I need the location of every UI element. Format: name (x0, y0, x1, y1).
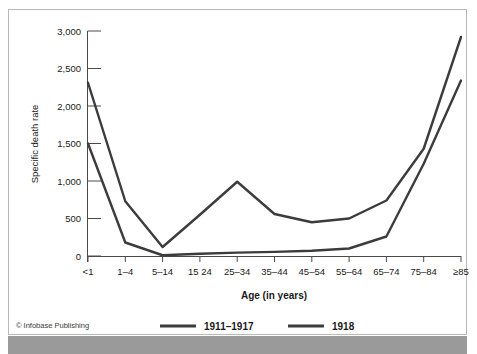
x-tick-label-5: 35–44 (261, 266, 287, 277)
figure-root: 3,000 2,500 2,000 1,500 1,000 500 0 <11–… (0, 0, 477, 354)
y-tick-label-3000: 3,000 (57, 26, 81, 37)
x-axis-tick-labels: <11–45–1415 2425–3435–4445–5455–6465–747… (83, 266, 469, 277)
y-tick-label-2000: 2,000 (57, 101, 81, 112)
x-tick-label-8: 65–74 (373, 266, 399, 277)
y-axis-tick-labels: 3,000 2,500 2,000 1,500 1,000 500 0 (57, 26, 81, 262)
legend: 1911–1917 1918 (160, 321, 355, 332)
line-chart: 3,000 2,500 2,000 1,500 1,000 500 0 <11–… (0, 0, 477, 354)
bottom-grey-strip (8, 336, 467, 354)
x-tick-label-7: 55–64 (336, 266, 362, 277)
y-tick-label-2500: 2,500 (57, 63, 81, 74)
legend-label-1918: 1918 (332, 321, 355, 332)
x-tick-label-9: 75–84 (410, 266, 436, 277)
y-axis-ticks (88, 31, 102, 256)
y-tick-label-0: 0 (76, 251, 81, 262)
publisher-credit: © Infobase Publishing (16, 321, 89, 330)
series-line-1918 (88, 37, 461, 247)
series-line-1911-1917 (88, 81, 461, 256)
x-tick-label-2: 5–14 (152, 266, 173, 277)
y-tick-label-1500: 1,500 (57, 138, 81, 149)
y-axis-title: Specific death rate (29, 105, 40, 184)
y-tick-label-500: 500 (65, 213, 81, 224)
x-tick-label-4: 25–34 (224, 266, 250, 277)
y-tick-label-1000: 1,000 (57, 176, 81, 187)
x-tick-label-0: <1 (83, 266, 94, 277)
x-axis-title: Age (in years) (241, 290, 307, 301)
legend-label-1911-1917: 1911–1917 (204, 321, 254, 332)
x-tick-label-10: ≥85 (453, 266, 469, 277)
x-tick-label-1: 1–4 (117, 266, 133, 277)
x-tick-label-6: 45–54 (299, 266, 325, 277)
x-tick-label-3: 15 24 (188, 266, 212, 277)
